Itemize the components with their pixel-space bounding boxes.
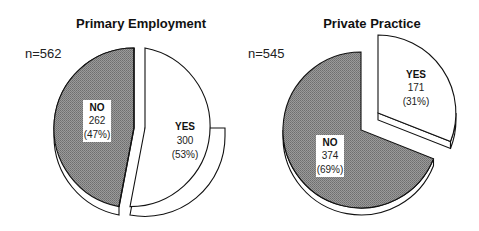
label-no-pct: (69%): [317, 164, 344, 175]
label-no: NO 262 (47%): [83, 100, 111, 142]
label-no-count: 262: [89, 115, 106, 126]
label-yes-count: 171: [408, 82, 425, 93]
label-no-count: 374: [322, 150, 339, 161]
chart-title: Primary Employment: [76, 16, 207, 31]
label-no-title: NO: [323, 137, 338, 148]
label-no-title: NO: [90, 102, 105, 113]
label-yes-pct: (31%): [403, 96, 430, 107]
label-no: NO 374 (69%): [316, 135, 344, 177]
chart-primary-employment: Primary Employment n=562 NO 262 (47%) YE…: [25, 16, 225, 216]
label-yes-count: 300: [177, 135, 194, 146]
sample-size-label: n=545: [248, 46, 285, 61]
label-yes-title: YES: [175, 121, 195, 132]
sample-size-label: n=562: [25, 46, 62, 61]
pie-charts-figure: Primary Employment n=562 NO 262 (47%) YE…: [0, 0, 479, 231]
chart-private-practice: Private Practice n=545 YES 171 (31%) NO …: [248, 16, 456, 215]
chart-title: Private Practice: [323, 16, 421, 31]
label-yes-pct: (53%): [172, 149, 199, 160]
label-yes-title: YES: [406, 69, 426, 80]
pie-slice-yes: [130, 48, 225, 216]
label-no-pct: (47%): [84, 129, 111, 140]
